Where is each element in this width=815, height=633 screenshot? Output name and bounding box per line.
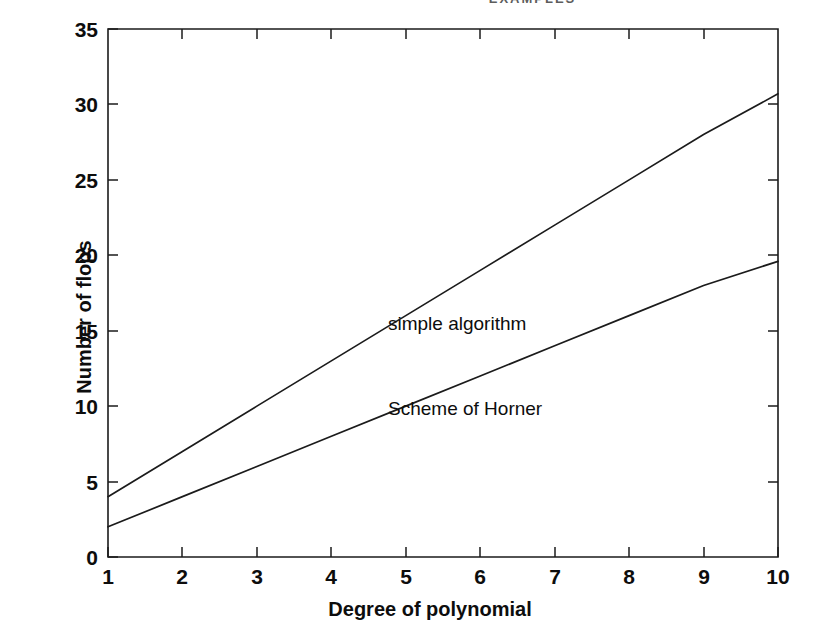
x-tick-label-2: 2 <box>176 566 188 587</box>
y-axis-ticks <box>108 29 118 557</box>
y-tick-label-5: 5 <box>56 472 98 493</box>
x-tick-label-6: 6 <box>474 566 486 587</box>
series-annotation-scheme-of-horner: Scheme of Horner <box>388 398 542 420</box>
x-tick-label-7: 7 <box>549 566 561 587</box>
y-tick-label-25: 25 <box>56 170 98 191</box>
y-tick-label-0: 0 <box>56 547 98 568</box>
x-axis-ticks <box>108 547 778 557</box>
x-tick-label-9: 9 <box>698 566 710 587</box>
x-axis-ticks-top <box>182 29 704 39</box>
y-axis-title: Number of flops <box>73 240 96 393</box>
y-axis-ticks-right <box>768 104 778 482</box>
figure-root: EXAMPLES <box>0 0 815 633</box>
series-annotation-simple-algorithm: simple algorithm <box>388 313 526 335</box>
y-tick-label-10: 10 <box>56 396 98 417</box>
y-tick-label-35: 35 <box>56 19 98 40</box>
x-tick-label-4: 4 <box>325 566 337 587</box>
series-line-scheme-of-horner <box>108 261 778 527</box>
series-group <box>108 94 778 527</box>
y-tick-label-30: 30 <box>56 94 98 115</box>
x-tick-label-8: 8 <box>623 566 635 587</box>
x-tick-label-1: 1 <box>102 566 114 587</box>
x-tick-label-3: 3 <box>251 566 263 587</box>
x-axis-title: Degree of polynomial <box>0 598 815 621</box>
x-tick-label-10: 10 <box>766 566 789 587</box>
x-tick-label-5: 5 <box>400 566 412 587</box>
